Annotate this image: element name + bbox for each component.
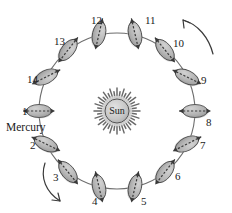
sun-body: Sun	[94, 88, 140, 134]
position-label-12: 12	[91, 15, 102, 26]
mercury-orbit-diagram: Sun 1234567891011121314 Mercury	[0, 0, 232, 213]
direction-arrow-top-right	[183, 20, 213, 54]
diagram-canvas: Sun	[0, 0, 232, 213]
direction-arrow-top-right-head	[183, 20, 190, 28]
position-label-11: 11	[145, 15, 156, 26]
axis-arrowhead-start	[179, 108, 184, 113]
position-label-7: 7	[200, 140, 206, 151]
position-label-6: 6	[175, 171, 181, 182]
position-label-2: 2	[30, 140, 36, 151]
axis-arrowhead-end	[51, 108, 56, 113]
position-label-8: 8	[206, 117, 212, 128]
position-label-5: 5	[141, 196, 147, 207]
position-label-9: 9	[201, 75, 207, 86]
position-label-1: 1	[22, 106, 28, 117]
planet-position-1	[23, 105, 55, 119]
position-label-4: 4	[92, 196, 98, 207]
mercury-label: Mercury	[6, 122, 46, 134]
planet-position-9	[169, 64, 204, 91]
position-label-10: 10	[173, 38, 184, 49]
position-label-13: 13	[54, 36, 65, 47]
position-label-14: 14	[27, 74, 38, 85]
position-label-3: 3	[53, 172, 59, 183]
planet-position-7	[169, 130, 204, 157]
axis-arrowhead-end	[207, 108, 212, 113]
sun-label: Sun	[109, 105, 125, 116]
